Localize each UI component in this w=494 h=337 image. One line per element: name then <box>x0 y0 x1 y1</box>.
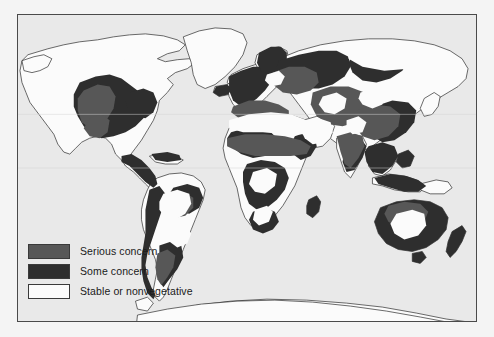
legend-label-some-concern: Some concern <box>80 266 149 277</box>
legend-swatch-some-concern <box>28 264 70 279</box>
legend-item-some-concern: Some concern <box>28 264 193 279</box>
screenshot-root: Serious concern Some concern Stable or n… <box>0 0 494 337</box>
world-map-panel: Serious concern Some concern Stable or n… <box>17 14 477 322</box>
legend-swatch-serious-concern <box>28 244 70 259</box>
legend-item-serious-concern: Serious concern <box>28 244 193 259</box>
legend-swatch-stable-or-nonvegetative <box>28 284 70 299</box>
legend-item-stable-or-nonvegetative: Stable or nonvegetative <box>28 284 193 299</box>
map-legend: Serious concern Some concern Stable or n… <box>28 244 193 299</box>
legend-label-stable-or-nonvegetative: Stable or nonvegetative <box>80 286 193 297</box>
legend-label-serious-concern: Serious concern <box>80 246 157 257</box>
